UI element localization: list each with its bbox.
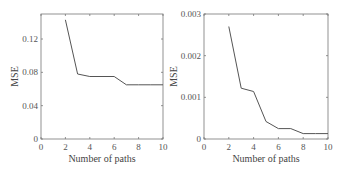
y-tick-label: 0.08 [22,67,38,77]
x-tick-label: 4 [88,142,93,152]
y-axis-label: MSE [9,66,20,87]
y-tick-label: 0.12 [22,34,38,44]
y-tick-label: 0.003 [181,9,202,19]
x-tick-label: 8 [301,142,306,152]
y-tick-label: 0 [197,134,202,144]
x-tick-label: 8 [136,142,141,152]
x-tick-label: 10 [324,142,334,152]
chart-canvas: 024681000.040.080.12Number of pathsMSE 0… [0,0,344,172]
x-tick-label: 0 [39,142,44,152]
x-tick-label: 6 [112,142,117,152]
x-tick-label: 4 [251,142,256,152]
x-tick-label: 2 [63,142,68,152]
x-axis-label: Number of paths [68,153,135,164]
mse-line [65,20,163,85]
mse-line [229,27,328,134]
x-tick-label: 0 [202,142,207,152]
left-mse-chart: 024681000.040.080.12Number of pathsMSE [9,14,168,164]
right-mse-chart: 024681000.0010.0020.003Number of pathsMS… [168,9,333,164]
y-axis-label: MSE [168,66,179,87]
x-tick-label: 10 [159,142,169,152]
x-tick-label: 6 [276,142,281,152]
x-tick-label: 2 [227,142,232,152]
y-tick-label: 0 [34,134,39,144]
y-tick-label: 0.001 [181,92,201,102]
y-tick-label: 0.04 [22,101,38,111]
x-axis-label: Number of paths [232,153,299,164]
y-tick-label: 0.002 [181,51,201,61]
